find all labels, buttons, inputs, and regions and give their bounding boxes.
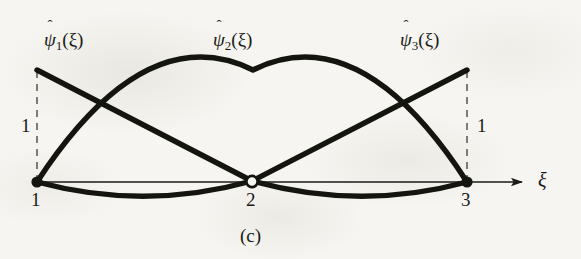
- right-height-value-label: 1: [477, 116, 487, 135]
- figure-caption: (c): [240, 226, 261, 245]
- psi-symbol-3: ˆψ: [400, 30, 412, 49]
- node-label-1: 1: [31, 190, 41, 209]
- psi-symbol-1: ˆψ: [44, 30, 56, 49]
- hat-accent-icon: ˆ: [403, 18, 408, 33]
- psi-argument-3: (ξ): [418, 29, 439, 50]
- xi-axis-label: ξ: [538, 170, 547, 190]
- psi-symbol-2: ˆψ: [213, 30, 225, 49]
- hat-accent-icon: ˆ: [47, 18, 52, 33]
- figure-container: ˆψ1(ξ) ˆψ2(ξ) ˆψ3(ξ) 1 1 1 2 3 ξ (c): [0, 0, 581, 259]
- curve-label-psi-2: ˆψ2(ξ): [213, 30, 252, 52]
- left-height-value-label: 1: [21, 116, 31, 135]
- curve-label-psi-1: ˆψ1(ξ): [44, 30, 83, 52]
- shape-function-plot: [0, 0, 581, 259]
- hat-accent-icon: ˆ: [216, 18, 221, 33]
- node-marker-1: [31, 176, 42, 187]
- psi-argument-2: (ξ): [231, 29, 252, 50]
- psi-argument-1: (ξ): [62, 29, 83, 50]
- curve-psi-2: [37, 57, 467, 182]
- node-label-2: 2: [246, 190, 256, 209]
- node-marker-3: [461, 176, 472, 187]
- node-label-3: 3: [461, 190, 471, 209]
- curve-label-psi-3: ˆψ3(ξ): [400, 30, 439, 52]
- node-marker-2: [246, 176, 257, 187]
